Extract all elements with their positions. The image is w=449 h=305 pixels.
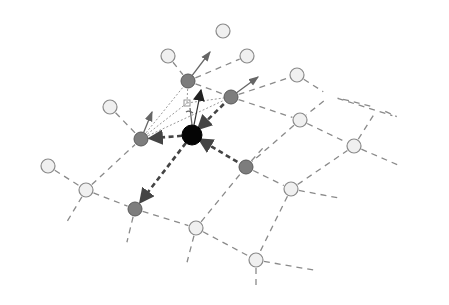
mesh-edge: [55, 170, 79, 185]
mesh-edge: [338, 98, 393, 115]
mesh-nodes: [41, 24, 361, 267]
mesh-node: [161, 49, 175, 63]
neighbor-node: [239, 160, 253, 174]
center-node-group: [182, 125, 202, 145]
mesh-diagram: [0, 0, 449, 305]
mesh-edge: [92, 144, 135, 184]
mesh-edge: [361, 149, 397, 165]
mesh-edge: [66, 197, 82, 223]
mesh-edge: [298, 151, 348, 185]
mesh-edge: [304, 79, 324, 91]
mesh-edge: [143, 211, 189, 225]
direction-vector-arrow: [144, 112, 152, 133]
force-edges: [140, 104, 237, 202]
mesh-edge: [358, 115, 373, 139]
resultant-vector-arrow: [194, 90, 201, 125]
mesh-edge: [239, 100, 293, 118]
mesh-edge: [195, 84, 223, 94]
mesh-edge: [251, 146, 264, 161]
mesh-node: [216, 24, 230, 38]
mesh-edge: [338, 98, 370, 106]
mesh-node: [249, 253, 263, 267]
force-arrow: [198, 104, 223, 129]
direction-vectors: [144, 52, 258, 133]
mesh-edge: [127, 217, 133, 242]
neighbor-node: [134, 132, 148, 146]
mesh-edge: [116, 113, 136, 134]
mesh-edge: [307, 123, 347, 142]
mesh-node: [79, 183, 93, 197]
mesh-edge: [201, 173, 241, 222]
mesh-edge: [203, 232, 249, 256]
center-node: [182, 125, 202, 145]
force-arrow: [150, 136, 182, 139]
construction-line: [141, 81, 188, 139]
mesh-edge: [253, 171, 284, 186]
mesh-node: [189, 221, 203, 235]
mesh-edge: [264, 261, 317, 270]
mesh-node: [103, 100, 117, 114]
mesh-node: [290, 68, 304, 82]
mesh-edge: [385, 111, 396, 116]
force-arrow: [140, 143, 185, 202]
force-arrow: [200, 140, 238, 162]
neighbor-node: [224, 90, 238, 104]
mesh-node: [41, 159, 55, 173]
neighbor-node: [128, 202, 142, 216]
mesh-edge: [173, 62, 183, 75]
mesh-edge: [260, 196, 288, 253]
direction-vector-arrow: [237, 77, 258, 93]
neighbor-node: [181, 74, 195, 88]
mesh-node: [284, 182, 298, 196]
mesh-edge: [252, 125, 294, 161]
mesh-node: [293, 113, 307, 127]
mesh-edge: [93, 193, 127, 206]
angle-line: [190, 108, 192, 125]
mesh-edge: [187, 236, 194, 263]
mesh-node: [347, 139, 361, 153]
mesh-edge: [299, 190, 342, 198]
direction-vector-arrow: [192, 52, 210, 75]
angle-arc: [186, 111, 193, 113]
mesh-node: [240, 49, 254, 63]
mesh-edge: [306, 101, 324, 115]
